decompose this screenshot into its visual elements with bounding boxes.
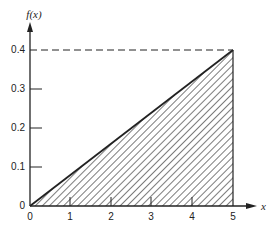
y-tick-label: 0.1 [11, 161, 25, 172]
y-axis-arrow-icon [27, 22, 33, 32]
chart: 0 0.1 0.2 0.3 0.4 0 1 2 3 4 5 f(x) x [0, 0, 276, 226]
x-tick-label: 2 [108, 211, 114, 222]
y-tick-label: 0.4 [11, 44, 25, 55]
x-axis-arrow-icon [246, 203, 257, 209]
x-tick-label: 1 [67, 211, 73, 222]
x-tick-label: 3 [148, 211, 154, 222]
y-ticks [30, 89, 42, 167]
x-axis-label: x [260, 200, 266, 212]
x-tick-label: 0 [27, 211, 33, 222]
y-tick-label: 0.2 [11, 122, 25, 133]
y-tick-label: 0 [19, 200, 25, 211]
y-tick-label: 0.3 [11, 83, 25, 94]
x-tick-label: 5 [230, 211, 236, 222]
x-tick-label: 4 [189, 211, 195, 222]
y-axis-label: f(x) [26, 8, 42, 21]
